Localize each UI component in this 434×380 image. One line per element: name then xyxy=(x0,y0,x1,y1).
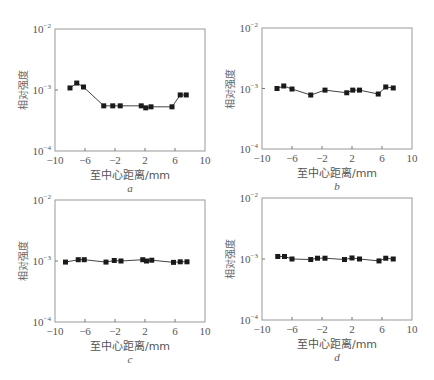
panel-letter: a xyxy=(127,182,133,194)
y-tick-label: 10−2 xyxy=(33,193,52,206)
x-tick-label: 10 xyxy=(200,325,212,337)
square-marker-icon xyxy=(350,255,355,260)
y-tick-label: 10−2 xyxy=(240,21,259,34)
square-marker-icon xyxy=(149,258,154,263)
square-marker-icon xyxy=(350,88,355,93)
x-tick-label: 10 xyxy=(407,152,419,164)
x-tick-label: 10 xyxy=(200,154,212,166)
square-marker-icon xyxy=(171,260,176,265)
x-tick-label: 2 xyxy=(142,325,148,337)
square-marker-icon xyxy=(143,105,148,110)
x-tick-label: −6 xyxy=(286,152,298,164)
square-marker-icon xyxy=(357,257,362,262)
x-axis-label: 至中心距离/mm xyxy=(297,337,377,351)
square-marker-icon xyxy=(74,81,79,86)
x-tick-label: 6 xyxy=(379,152,385,164)
square-marker-icon xyxy=(119,259,124,264)
chart-panel-d: −10−6−2261010−410−310−2相对强度至中心距离/mmd xyxy=(224,191,418,363)
square-marker-icon xyxy=(383,256,388,261)
y-tick-label: 10−3 xyxy=(33,83,52,96)
y-tick-label: 10−2 xyxy=(240,191,259,204)
square-marker-icon xyxy=(82,257,87,262)
square-marker-icon xyxy=(344,90,349,95)
chart-panel-a: −10−6−2261010−410−310−2相对强度至中心距离/mma xyxy=(17,22,211,194)
panel-letter: c xyxy=(128,353,133,365)
square-marker-icon xyxy=(275,86,280,91)
y-axis-label: 相对强度 xyxy=(17,241,29,281)
panel-letter: d xyxy=(334,351,340,363)
x-tick-label: −2 xyxy=(109,154,121,166)
square-marker-icon xyxy=(76,257,81,262)
square-marker-icon xyxy=(323,88,328,93)
y-tick-label: 10−3 xyxy=(33,254,52,267)
square-marker-icon xyxy=(383,84,388,89)
square-marker-icon xyxy=(290,87,295,92)
square-marker-icon xyxy=(139,103,144,108)
square-marker-icon xyxy=(178,92,183,97)
chart-panel-b: −10−6−2261010−410−310−2相对强度至中心距离/mmb xyxy=(224,21,418,192)
x-axis-label: 至中心距离/mm xyxy=(90,339,170,353)
square-marker-icon xyxy=(149,104,154,109)
y-axis-label: 相对强度 xyxy=(224,69,236,109)
y-tick-label: 10−2 xyxy=(33,22,52,35)
square-marker-icon xyxy=(315,256,320,261)
data-line xyxy=(70,83,186,108)
panel-letter: b xyxy=(334,180,340,192)
square-marker-icon xyxy=(391,85,396,90)
square-marker-icon xyxy=(275,254,280,259)
chart-panel-c: −10−6−2261010−410−310−2相对强度至中心距离/mmc xyxy=(17,193,211,365)
x-tick-label: −10 xyxy=(46,154,64,166)
x-tick-label: 2 xyxy=(349,152,355,164)
x-tick-label: 2 xyxy=(142,154,148,166)
plot-frame xyxy=(262,28,412,149)
x-axis-label: 至中心距离/mm xyxy=(90,168,170,182)
square-marker-icon xyxy=(68,85,73,90)
square-marker-icon xyxy=(101,103,106,108)
x-tick-label: 6 xyxy=(379,323,385,335)
square-marker-icon xyxy=(391,257,396,262)
square-marker-icon xyxy=(357,88,362,93)
square-marker-icon xyxy=(178,259,183,264)
square-marker-icon xyxy=(376,92,381,97)
x-tick-label: 6 xyxy=(172,154,178,166)
x-tick-label: 2 xyxy=(349,323,355,335)
plot-frame xyxy=(55,29,205,151)
square-marker-icon xyxy=(185,259,190,264)
square-marker-icon xyxy=(281,83,286,88)
y-axis-label: 相对强度 xyxy=(17,70,29,110)
x-tick-label: 10 xyxy=(407,323,419,335)
x-tick-label: −10 xyxy=(253,152,271,164)
y-tick-label: 10−3 xyxy=(240,252,259,265)
square-marker-icon xyxy=(308,257,313,262)
x-tick-label: −6 xyxy=(79,325,91,337)
square-marker-icon xyxy=(377,258,382,263)
x-tick-label: 6 xyxy=(172,325,178,337)
square-marker-icon xyxy=(81,84,86,89)
chart-canvas: −10−6−2261010−410−310−2相对强度至中心距离/mma−10−… xyxy=(0,0,434,380)
square-marker-icon xyxy=(144,259,149,264)
square-marker-icon xyxy=(118,103,123,108)
y-tick-label: 10−3 xyxy=(240,82,259,95)
square-marker-icon xyxy=(342,257,347,262)
x-tick-label: −6 xyxy=(79,154,91,166)
x-tick-label: −10 xyxy=(253,323,271,335)
x-tick-label: −10 xyxy=(46,325,64,337)
square-marker-icon xyxy=(308,93,313,98)
data-line xyxy=(278,256,394,260)
square-marker-icon xyxy=(184,92,189,97)
square-marker-icon xyxy=(282,254,287,259)
square-marker-icon xyxy=(110,103,115,108)
y-axis-label: 相对强度 xyxy=(224,239,236,279)
x-tick-label: −2 xyxy=(316,323,328,335)
x-axis-label: 至中心距离/mm xyxy=(297,166,377,180)
x-tick-label: −6 xyxy=(286,323,298,335)
square-marker-icon xyxy=(170,104,175,109)
square-marker-icon xyxy=(323,256,328,261)
square-marker-icon xyxy=(104,260,109,265)
x-tick-label: −2 xyxy=(316,152,328,164)
square-marker-icon xyxy=(290,257,295,262)
square-marker-icon xyxy=(63,260,68,265)
square-marker-icon xyxy=(112,258,117,263)
x-tick-label: −2 xyxy=(109,325,121,337)
